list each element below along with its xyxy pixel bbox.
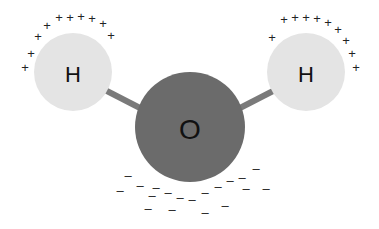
atom-oxygen: O — [135, 72, 245, 182]
positive-charge-right: + — [313, 11, 321, 26]
negative-charge: – — [201, 185, 209, 200]
positive-charge-right: + — [324, 15, 332, 30]
positive-charge-right: + — [291, 10, 299, 25]
negative-charge: – — [176, 190, 184, 205]
atom-h-left: H — [34, 33, 112, 111]
positive-charge-left: + — [66, 10, 74, 25]
negative-charge: – — [188, 192, 196, 207]
positive-charge-left: + — [107, 28, 115, 43]
negative-charge: – — [214, 179, 222, 194]
positive-charge-left: + — [99, 16, 107, 31]
positive-charge-right: + — [302, 10, 310, 25]
positive-charge-left: + — [77, 9, 85, 24]
negative-charge: – — [201, 205, 209, 220]
negative-charge: – — [136, 178, 144, 193]
bond-line — [240, 90, 275, 108]
negative-charge: – — [252, 161, 260, 176]
positive-charge-left: + — [27, 46, 35, 61]
atoms: HOH — [34, 33, 345, 182]
positive-charge-left: + — [55, 10, 63, 25]
atom-h-right: H — [267, 33, 345, 111]
negative-charge: – — [124, 168, 132, 183]
atom-label: H — [298, 62, 314, 87]
negative-charge: – — [164, 185, 172, 200]
negative-charge: – — [221, 198, 229, 213]
positive-charge-right: + — [348, 46, 356, 61]
negative-charge: – — [116, 183, 124, 198]
positive-charge-left: + — [21, 60, 29, 75]
positive-charge-left: + — [43, 18, 51, 33]
negative-charge: – — [242, 181, 250, 196]
negative-charge: – — [144, 201, 152, 216]
atom-label: H — [65, 62, 81, 87]
negative-charge: – — [226, 173, 234, 188]
positive-charge-left: + — [34, 29, 42, 44]
positive-charge-right: + — [268, 30, 276, 45]
positive-charge-right: + — [280, 12, 288, 27]
positive-charge-right: + — [334, 22, 342, 37]
bond-line — [105, 90, 140, 108]
water-molecule-diagram: HOH ++++++++++++++++++++ –––––––––––––––… — [0, 0, 379, 229]
negative-charge: – — [152, 180, 160, 195]
negative-charge: – — [168, 202, 176, 217]
negative-charge: – — [262, 181, 270, 196]
positive-charge-left: + — [88, 11, 96, 26]
positive-charge-right: + — [352, 60, 360, 75]
atom-label: O — [179, 114, 201, 145]
